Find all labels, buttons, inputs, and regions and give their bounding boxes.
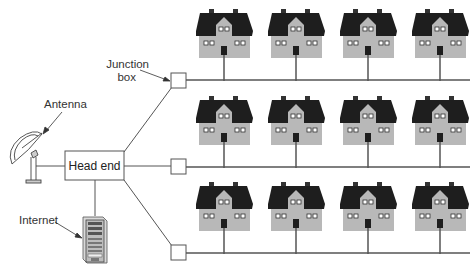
house-row-1 bbox=[196, 9, 469, 81]
junction-box-label: Junction box bbox=[99, 58, 149, 84]
antenna-icon bbox=[10, 132, 42, 183]
junction-boxes bbox=[171, 73, 186, 260]
internet-label: Internet bbox=[19, 214, 58, 227]
house-row-2 bbox=[196, 96, 469, 168]
junction-box-middle bbox=[171, 159, 186, 174]
junction-box-top bbox=[171, 73, 186, 88]
head-end-label: Head end bbox=[65, 159, 124, 173]
internet-server-icon bbox=[83, 217, 107, 263]
house-row-3 bbox=[196, 182, 469, 254]
junction-box-label-line2: box bbox=[99, 71, 149, 84]
junction-box-label-line1: Junction bbox=[99, 58, 149, 71]
cable-network-diagram bbox=[0, 0, 475, 275]
junction-box-bottom bbox=[171, 245, 186, 260]
antenna-label: Antenna bbox=[44, 98, 87, 111]
